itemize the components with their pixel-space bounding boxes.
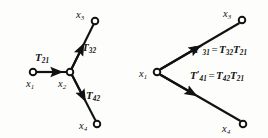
edge-label-T32: T32 xyxy=(82,42,96,53)
graph-canvas xyxy=(0,0,268,138)
edge-label-T42: T42 xyxy=(86,90,100,101)
equation-label-T41: T′41=T42T21 xyxy=(190,70,244,81)
node-label-x3: x3 xyxy=(76,10,84,21)
node-label-x1-right: x1 xyxy=(139,69,147,80)
node-x4-right xyxy=(240,121,247,128)
node-x4 xyxy=(94,121,101,128)
node-x3 xyxy=(92,18,99,25)
node-label-x3-right: x3 xyxy=(223,9,231,20)
node-x2 xyxy=(67,69,74,76)
left-graph xyxy=(30,18,101,128)
equation-label-T31: T′31=T32T21 xyxy=(193,44,247,55)
node-x1-right xyxy=(154,69,161,76)
node-x3-right xyxy=(239,17,246,24)
figure-container: x1 x2 x3 x4 T21 T32 T42 x1 x3 x4 T′31=T3… xyxy=(0,0,268,138)
node-label-x4: x4 xyxy=(79,121,87,132)
node-label-x4-right: x4 xyxy=(222,124,230,135)
node-label-x1: x1 xyxy=(26,79,34,90)
node-x1 xyxy=(30,69,37,76)
node-label-x2: x2 xyxy=(58,79,66,90)
edge-label-T21: T21 xyxy=(35,52,49,63)
